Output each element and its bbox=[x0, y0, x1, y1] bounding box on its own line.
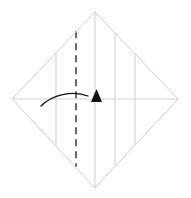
origami-diagram-container bbox=[0, 0, 191, 198]
origami-diagram-svg bbox=[0, 0, 191, 198]
